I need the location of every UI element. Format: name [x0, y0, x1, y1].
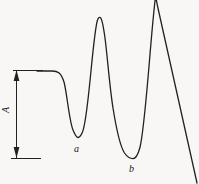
figure-container: A a b [0, 0, 199, 184]
oscillation-curve-plot [0, 0, 199, 184]
minimum-a-label: a [74, 144, 79, 154]
amplitude-arrow-head-up [14, 70, 20, 81]
oscillation-trace [37, 0, 197, 183]
minimum-b-label: b [129, 164, 134, 174]
amplitude-arrow-head-down [14, 147, 20, 158]
amplitude-label: A [1, 107, 11, 113]
